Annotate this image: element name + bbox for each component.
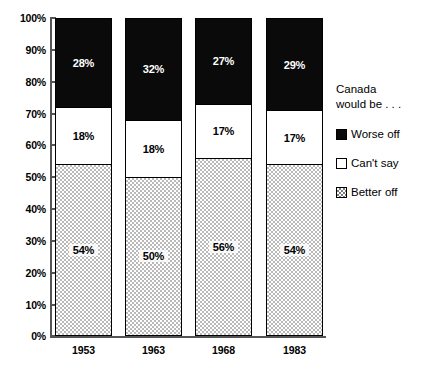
bar-1983-segment-worse-off: 29%: [266, 18, 323, 110]
bar-1953-label-worse-off: 28%: [73, 57, 94, 69]
x-tick-label-1983: 1983: [266, 344, 323, 356]
bar-1953-label-cant-say: 18%: [73, 130, 94, 142]
bar-1983-label-worse-off: 29%: [284, 59, 305, 71]
bar-1953-segment-cant-say: 18%: [55, 107, 112, 164]
chart-legend: Canada would be . . . Worse off Can't sa…: [336, 82, 421, 215]
bar-1968-segment-cant-say: 17%: [195, 104, 252, 158]
y-tick-label-100: 100%: [2, 13, 46, 23]
legend-item-cant-say: Can't say: [336, 157, 421, 169]
legend-label-better-off: Better off: [351, 186, 397, 198]
bar-1983-label-cant-say: 17%: [284, 132, 305, 144]
legend-item-worse-off: Worse off: [336, 128, 421, 140]
bar-1963-segment-better-off: 50%: [125, 177, 182, 336]
y-tick-label-50: 50%: [2, 172, 46, 182]
stacked-bar-chart: 100% 90% 80% 70% 60% 50% 40% 30% 20% 10%…: [0, 0, 421, 367]
y-tick-label-30: 30%: [2, 236, 46, 246]
x-tick-label-1963: 1963: [125, 344, 182, 356]
bar-1983-segment-cant-say: 17%: [266, 110, 323, 164]
bar-1963-segment-worse-off: 32%: [125, 18, 182, 120]
bar-1963-label-better-off: 50%: [143, 250, 164, 262]
bar-1968: 27% 17% 56%: [195, 18, 252, 336]
bar-1968-label-cant-say: 17%: [213, 125, 234, 137]
y-tick-label-40: 40%: [2, 204, 46, 214]
bar-1983-label-better-off: 54%: [284, 244, 305, 256]
y-tick-label-90: 90%: [2, 45, 46, 55]
legend-item-better-off: Better off: [336, 186, 421, 198]
bar-1968-segment-worse-off: 27%: [195, 18, 252, 104]
bar-1983: 29% 17% 54%: [266, 18, 323, 336]
bar-1953-label-better-off: 54%: [73, 244, 94, 256]
bar-1953-segment-better-off: 54%: [55, 164, 112, 336]
legend-title-line-2: would be . . .: [336, 97, 421, 112]
y-tick-label-0: 0%: [2, 331, 46, 341]
x-tick-label-1953: 1953: [55, 344, 112, 356]
bar-1968-segment-better-off: 56%: [195, 158, 252, 336]
bar-1983-segment-better-off: 54%: [266, 164, 323, 336]
bar-1963-label-cant-say: 18%: [143, 143, 164, 155]
y-tick-label-60: 60%: [2, 140, 46, 150]
bar-1968-label-better-off: 56%: [213, 241, 234, 253]
legend-title: Canada would be . . .: [336, 82, 421, 112]
x-tick-label-1968: 1968: [195, 344, 252, 356]
white-square-icon: [336, 158, 347, 169]
solid-black-square-icon: [336, 129, 347, 140]
x-axis-line: [50, 336, 326, 338]
bar-1953: 28% 18% 54%: [55, 18, 112, 336]
y-tick-label-70: 70%: [2, 109, 46, 119]
legend-label-worse-off: Worse off: [351, 128, 400, 140]
bar-1963: 32% 18% 50%: [125, 18, 182, 336]
dotted-square-icon: [336, 187, 347, 198]
bar-1953-segment-worse-off: 28%: [55, 18, 112, 107]
bar-1963-segment-cant-say: 18%: [125, 120, 182, 177]
legend-label-cant-say: Can't say: [351, 157, 399, 169]
legend-title-line-1: Canada: [336, 82, 421, 97]
bar-1963-label-worse-off: 32%: [143, 63, 164, 75]
y-tick-label-20: 20%: [2, 268, 46, 278]
bar-1968-label-worse-off: 27%: [213, 55, 234, 67]
y-tick-label-10: 10%: [2, 300, 46, 310]
y-tick-label-80: 80%: [2, 77, 46, 87]
